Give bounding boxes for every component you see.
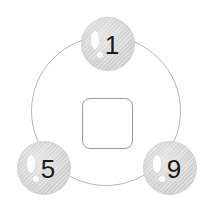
number-node-bottom-left[interactable]: 5 [17,141,71,195]
node-label: 5 [41,154,55,185]
highlight-glint [153,155,161,173]
highlight-dot [33,176,39,182]
node-label: 9 [167,154,181,185]
center-answer-slot[interactable] [82,98,133,149]
highlight-glint [27,155,35,173]
number-node-bottom-right[interactable]: 9 [143,141,197,195]
node-label: 1 [105,30,119,61]
highlight-dot [159,176,165,182]
number-node-top[interactable]: 1 [81,17,135,71]
highlight-dot [97,52,103,58]
highlight-glint [91,31,99,49]
